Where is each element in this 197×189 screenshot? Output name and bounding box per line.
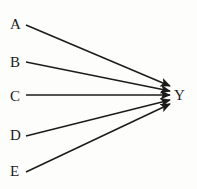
node-label-e: E (10, 164, 19, 179)
node-label-c: C (10, 89, 20, 104)
node-label-d: D (10, 128, 21, 143)
node-label-a: A (10, 17, 21, 32)
arrow-layer (0, 0, 197, 189)
diagram-canvas: A B C D E Y (0, 0, 197, 189)
edge-e-to-y (26, 104, 170, 172)
node-label-y: Y (174, 88, 185, 103)
edge-d-to-y (26, 100, 170, 136)
node-label-b: B (10, 55, 20, 70)
